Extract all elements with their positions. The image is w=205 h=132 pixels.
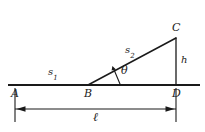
segment-label-s1-subscript: 1 [53,74,57,82]
segment-label-h: h [181,55,187,65]
point-label-d: D [172,88,181,99]
angle-leader-line [114,69,121,85]
segment-label-s2: s2 [125,45,135,58]
point-label-c: C [172,22,180,33]
segment-label-s1: s1 [48,67,58,80]
segment-label-s2-subscript: 2 [130,52,134,60]
figure-canvas [0,0,205,132]
angle-label-theta: θ [121,65,128,76]
point-label-b: B [84,88,92,99]
point-label-a: A [11,88,19,99]
dimension-arrowhead-left [17,106,26,112]
dimension-label-ell: ℓ [93,111,98,123]
dimension-arrowhead-right [166,106,175,112]
geometry-figure: A B C D s1 s2 h θ ℓ [0,0,205,132]
